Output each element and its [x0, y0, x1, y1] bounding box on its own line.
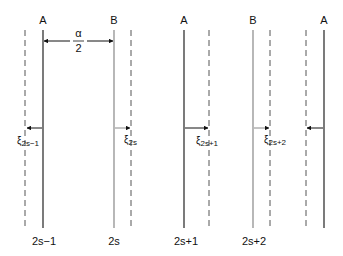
spacing-alpha-numerator: α — [75, 27, 82, 39]
index-label-2s+2: 2s+2 — [242, 235, 266, 247]
xi-label-2s: ξ2s — [124, 134, 137, 147]
xi-label-2s+1: ξ2s+1 — [196, 135, 219, 148]
xi-subscript: 2s+2 — [268, 138, 286, 147]
xi-label-2s-1: ξ2s−1 — [17, 135, 40, 148]
index-label-2s-1: 2s−1 — [32, 235, 56, 247]
index-label-2s: 2s — [108, 235, 120, 247]
plane-label-b-1: B — [110, 14, 117, 26]
plane-label-a-2: A — [180, 14, 188, 26]
atomic-plane-displacement-diagram: A B A B A α 2 ξ2s−1 ξ2s — [0, 0, 343, 256]
xi-subscript: 2s — [128, 138, 136, 147]
xi-subscript: 2s+1 — [200, 139, 218, 148]
plane-label-a-1: A — [39, 14, 47, 26]
xi-subscript: 2s−1 — [21, 139, 39, 148]
plane-label-a-3: A — [320, 14, 328, 26]
index-label-2s+1: 2s+1 — [174, 235, 198, 247]
plane-label-b-2: B — [249, 14, 256, 26]
xi-label-2s+2: ξ2s+2 — [264, 134, 287, 147]
spacing-alpha-denominator: 2 — [75, 42, 81, 54]
